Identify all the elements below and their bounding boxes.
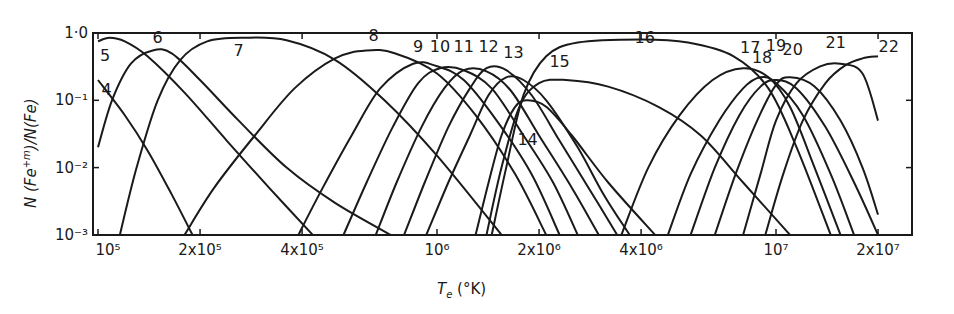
x-tick-label: 10⁷ xyxy=(763,241,788,259)
curve-label-12: 12 xyxy=(478,37,498,56)
x-tick-label: 10⁵ xyxy=(95,241,120,259)
curve-label-22: 22 xyxy=(879,37,899,56)
y-axis-label: N (Fe+m)/N(Fe) xyxy=(21,98,40,208)
y-tick-label: 10⁻³ xyxy=(55,226,88,244)
x-tick-label: 4x10⁵ xyxy=(280,241,324,259)
curve-label-15: 15 xyxy=(549,52,569,71)
curve-fe-20 xyxy=(715,77,878,235)
curve-label-14: 14 xyxy=(517,130,537,149)
x-axis-label: Te (°K) xyxy=(437,280,486,300)
curve-label-21: 21 xyxy=(826,33,846,52)
y-tick-label: 10⁻² xyxy=(55,159,88,177)
curve-fe-5 xyxy=(98,38,313,235)
curve-label-7: 7 xyxy=(234,41,244,60)
y-tick-label: 10⁻¹ xyxy=(55,91,88,109)
curve-label-11: 11 xyxy=(454,37,474,56)
curves-layer xyxy=(98,38,878,235)
curve-fe-10 xyxy=(344,67,578,235)
ionization-equilibrium-chart: 45678910111213141516171819202122 10⁵2x10… xyxy=(0,0,954,314)
y-tick-label: 1·0 xyxy=(64,24,88,42)
curve-fe-21 xyxy=(743,63,878,235)
curve-label-6: 6 xyxy=(153,28,163,47)
x-tick-label: 2x10⁵ xyxy=(178,241,222,259)
curve-label-10: 10 xyxy=(430,37,450,56)
curve-label-5: 5 xyxy=(100,46,110,65)
curve-label-16: 16 xyxy=(635,28,655,47)
curve-fe-17 xyxy=(621,68,840,235)
curve-fe-4 xyxy=(98,80,193,235)
curve-label-8: 8 xyxy=(369,26,379,45)
curve-fe-15 xyxy=(487,80,791,235)
x-tick-label: 10⁶ xyxy=(424,241,449,259)
x-tick-label: 2x10⁶ xyxy=(517,241,561,259)
curve-label-4: 4 xyxy=(102,80,112,99)
x-tick-label: 2x10⁷ xyxy=(856,241,900,259)
curve-label-20: 20 xyxy=(783,40,803,59)
curve-fe-22 xyxy=(765,56,878,235)
curve-label-13: 13 xyxy=(503,43,523,62)
curve-fe-16 xyxy=(492,40,831,235)
curve-label-9: 9 xyxy=(413,37,423,56)
x-tick-label: 4x10⁶ xyxy=(619,241,663,259)
